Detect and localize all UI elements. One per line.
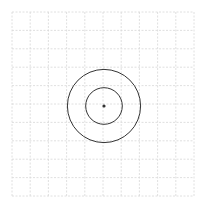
diagram-canvas [0, 0, 208, 212]
grid [12, 12, 194, 196]
center-point [102, 104, 105, 107]
shapes [67, 69, 140, 142]
